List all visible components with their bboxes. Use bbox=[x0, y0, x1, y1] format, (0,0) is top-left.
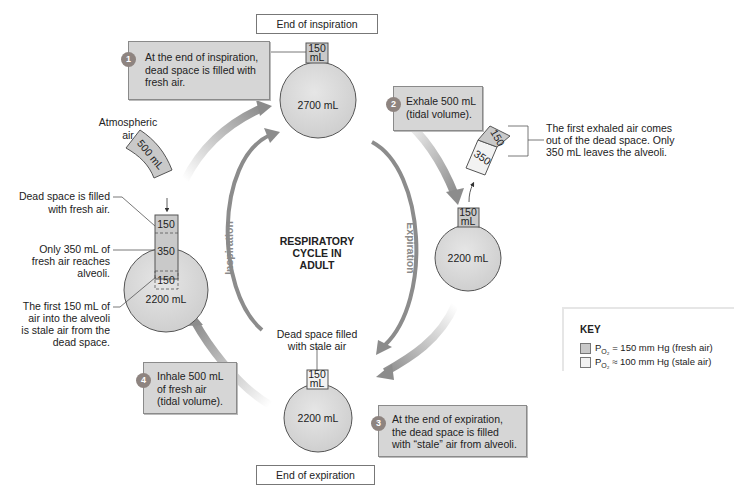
svg-text:with fresh air.: with fresh air. bbox=[47, 203, 110, 215]
svg-text:ADULT: ADULT bbox=[300, 259, 335, 271]
svg-text:The first 150 mL of: The first 150 mL of bbox=[23, 300, 110, 312]
step-1-box: 1 At the end of inspiration, dead space … bbox=[128, 41, 270, 100]
inhaled-air-segment: 500 mL Atmospheric air bbox=[99, 116, 172, 178]
end-of-expiration-label: End of expiration bbox=[256, 465, 375, 485]
svg-text:fresh air reaches: fresh air reaches bbox=[32, 255, 110, 267]
end-of-inspiration-label: End of inspiration bbox=[256, 14, 378, 34]
lung-end-of-expiration: 150 mL 2200 mL bbox=[284, 346, 352, 452]
step-1-badge: 1 bbox=[121, 52, 136, 67]
svg-text:out of the dead space. Only: out of the dead space. Only bbox=[546, 134, 675, 146]
svg-text:350 mL leaves the alveoli.: 350 mL leaves the alveoli. bbox=[546, 146, 667, 158]
fresh-air-swatch bbox=[580, 343, 591, 354]
legend-title: KEY bbox=[580, 324, 601, 335]
svg-text:dead space.: dead space. bbox=[53, 336, 110, 348]
svg-text:Dead space is filled: Dead space is filled bbox=[19, 190, 110, 202]
step-3-box: 3 At the end of expiration, the dead spa… bbox=[378, 405, 527, 457]
outer-arrow-top-to-right bbox=[402, 118, 464, 205]
atmospheric-label-1: Atmospheric bbox=[99, 116, 157, 128]
inspiration-arc bbox=[228, 128, 280, 330]
svg-text:Only 350 mL of: Only 350 mL of bbox=[39, 243, 110, 255]
svg-text:alveoli.: alveoli. bbox=[77, 267, 110, 279]
svg-text:CYCLE IN: CYCLE IN bbox=[292, 247, 341, 259]
legend-item-stale: PO₂ ≈ 100 mm Hg (stale air) bbox=[580, 356, 711, 369]
svg-text:air into the alveoli: air into the alveoli bbox=[28, 312, 110, 324]
lung-volume: 2200 mL bbox=[448, 252, 489, 264]
lung-volume: 2700 mL bbox=[298, 99, 339, 111]
step-2-box: 2 Exhale 500 mL (tidal volume). bbox=[393, 86, 483, 131]
dead-space-unit: mL bbox=[310, 51, 325, 63]
step-4-box: 4 Inhale 500 mL of fresh air (tidal volu… bbox=[143, 362, 237, 414]
legend-item-fresh: PO₂ = 150 mm Hg (fresh air) bbox=[580, 342, 713, 355]
lung-during-inspiration: 150 350 150 2200 mL bbox=[124, 198, 208, 332]
center-title: RESPIRATORY CYCLE IN ADULT bbox=[280, 235, 354, 271]
segment-150-bottom: 150 bbox=[157, 274, 175, 286]
exhaled-air-segment: 350 150 bbox=[466, 126, 544, 175]
step-2-badge: 2 bbox=[386, 97, 401, 112]
lung-end-of-inspiration: 150 mL 2700 mL bbox=[268, 42, 356, 138]
right-annotation: The first exhaled air comes out of the d… bbox=[546, 122, 675, 158]
segment-350: 350 bbox=[157, 245, 175, 257]
segment-150-top: 150 bbox=[157, 218, 175, 230]
svg-text:is stale air from the: is stale air from the bbox=[21, 324, 110, 336]
svg-text:RESPIRATORY: RESPIRATORY bbox=[280, 235, 354, 247]
atmospheric-label-2: air bbox=[122, 129, 134, 141]
step-4-badge: 4 bbox=[136, 373, 151, 388]
step-3-badge: 3 bbox=[371, 416, 386, 431]
stale-annotation: Dead space filled with stale air bbox=[277, 328, 358, 352]
lung-volume: 2200 mL bbox=[298, 412, 339, 424]
svg-text:with stale air: with stale air bbox=[287, 340, 347, 352]
stale-air-swatch bbox=[580, 357, 591, 368]
dead-space-unit: mL bbox=[461, 215, 476, 227]
inspiration-label: Inspiration bbox=[223, 221, 235, 275]
svg-text:The first exhaled air comes: The first exhaled air comes bbox=[546, 122, 672, 134]
lung-during-expiration: 150 mL 2200 mL bbox=[435, 184, 501, 291]
svg-text:Dead space filled: Dead space filled bbox=[277, 328, 358, 340]
legend: KEY PO₂ = 150 mm Hg (fresh air) PO₂ ≈ 10… bbox=[562, 307, 734, 371]
dead-space-unit: mL bbox=[310, 377, 325, 389]
lung-volume: 2200 mL bbox=[146, 293, 187, 305]
expiration-label: Expiration bbox=[405, 222, 417, 273]
